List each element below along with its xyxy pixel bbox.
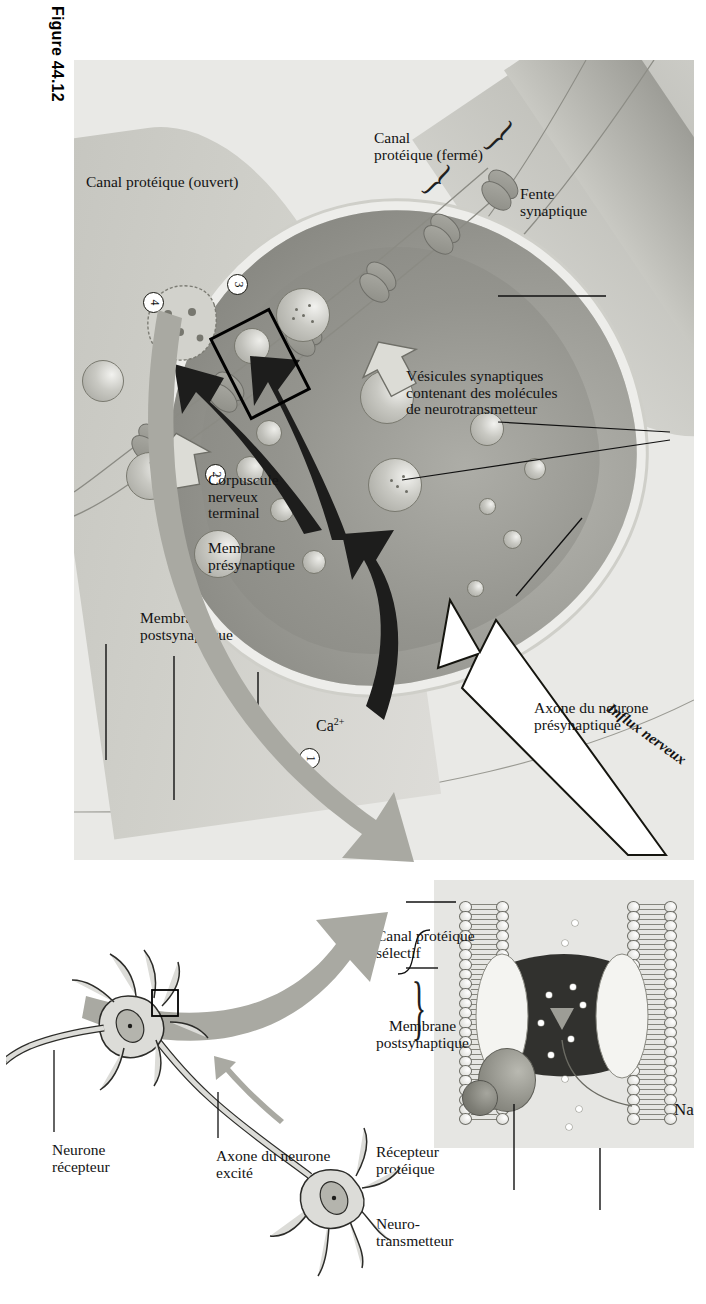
neuron-schematic [6,880,406,1300]
sodium-ion [572,920,578,926]
inset-detail-panel: Na+ [434,880,694,1148]
neurotransmitter-molecule [462,1080,498,1116]
sodium-ion [548,1052,554,1058]
label-postsynaptic-membrane: Membrane postsynaptique [140,610,233,643]
label-receiving-neuron: Neurone récepteur [52,1142,110,1175]
figure-number: Figure 44.12 [48,6,66,102]
label-presynaptic-membrane: Membrane présynaptique [208,540,295,573]
label-terminal: Corpuscule nerveux terminal [208,472,279,522]
label-open-channel: Canal protéique (ouvert) [86,174,238,191]
calcium-text: Ca [316,717,334,734]
label-calcium: Ca2+ [316,716,344,735]
sodium-ion [568,1036,574,1042]
label-synaptic-cleft: Fente synaptique [520,186,587,219]
calcium-charge: 2+ [334,716,345,727]
sodium-ion [562,1076,568,1082]
label-vesicles: Vésicules synaptiques contenant des molé… [406,368,558,418]
sodium-ion [562,940,568,946]
sodium-ion [566,1124,572,1130]
neuron-drawing [6,880,406,1300]
sodium-ion [538,1020,544,1026]
sodium-ion [546,992,552,998]
label-closed-channel: Canal protéique (fermé) [374,130,483,163]
label-sodium: Na+ [674,1098,694,1120]
sodium-ion [580,1002,586,1008]
sodium-ion [570,984,576,990]
label-excited-axon: Axone du neurone excité [216,1148,331,1181]
sodium-ion [576,1106,582,1112]
figure-stage: Figure 44.12 [0,0,706,1304]
sodium-text: Na [674,1100,694,1119]
